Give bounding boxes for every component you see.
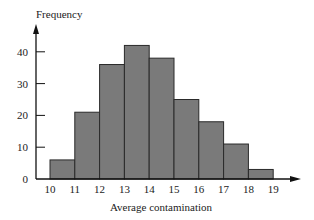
x-tick-label: 17 (218, 183, 230, 195)
histogram-bar (149, 58, 174, 179)
x-tick-label: 14 (144, 183, 156, 195)
x-tick-label: 12 (94, 183, 105, 195)
y-axis-arrow-icon (33, 24, 39, 34)
x-tick-label: 10 (45, 183, 57, 195)
y-tick-label: 10 (17, 141, 29, 153)
x-tick-label: 15 (169, 183, 181, 195)
x-axis-arrow-icon (290, 176, 301, 182)
y-tick-label: 40 (17, 46, 29, 58)
y-tick-label: 20 (17, 109, 29, 121)
y-ticks: 010203040 (17, 46, 45, 185)
histogram-bar (248, 169, 273, 179)
histogram-chart: 010203040 10111213141516171819 Frequency… (0, 0, 314, 220)
x-tick-label: 11 (70, 183, 81, 195)
y-tick-label: 30 (17, 78, 29, 90)
y-axis-label: Frequency (36, 8, 83, 20)
histogram-bar (100, 65, 125, 179)
histogram-bar (224, 144, 249, 179)
histogram-bar (50, 160, 75, 179)
histogram-bar (124, 45, 149, 179)
x-tick-label: 18 (243, 183, 255, 195)
x-tick-label: 16 (193, 183, 205, 195)
x-axis-label: Average contamination (110, 201, 213, 213)
x-tick-label: 19 (268, 183, 280, 195)
histogram-bars (50, 45, 273, 179)
histogram-bar (199, 122, 224, 179)
x-tick-label: 13 (119, 183, 131, 195)
histogram-bar (75, 112, 100, 179)
x-ticks: 10111213141516171819 (45, 183, 280, 195)
histogram-bar (174, 100, 199, 180)
y-tick-label: 0 (23, 173, 29, 185)
